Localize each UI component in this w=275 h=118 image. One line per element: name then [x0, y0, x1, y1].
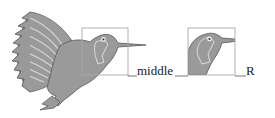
r-label: R — [246, 64, 255, 77]
middle-label: middle — [137, 64, 173, 77]
diagram-canvas — [0, 0, 275, 118]
cropped-head-illustration — [188, 33, 246, 75]
hummingbird-diagram: middle R — [0, 0, 275, 118]
full-bird-illustration — [12, 12, 146, 110]
middle-leader-line — [128, 75, 137, 76]
